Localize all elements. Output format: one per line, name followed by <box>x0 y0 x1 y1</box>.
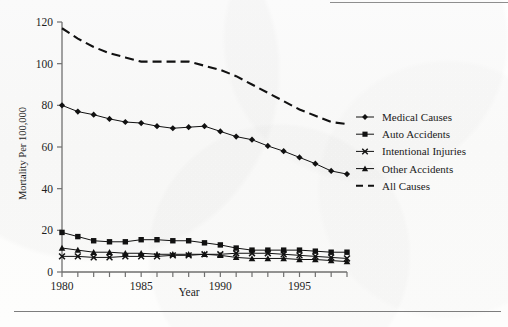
series-all-causes <box>62 28 347 124</box>
y-tick-label: 120 <box>36 16 54 28</box>
diamond-marker <box>249 137 255 143</box>
square-marker <box>233 245 238 250</box>
diamond-marker <box>170 125 176 131</box>
diamond-marker <box>154 123 160 129</box>
diamond-marker <box>233 133 239 139</box>
diamond-marker <box>281 148 287 154</box>
square-marker <box>313 248 318 253</box>
x-tick-label: 1990 <box>209 280 232 292</box>
y-tick-label: 40 <box>42 183 54 195</box>
square-marker <box>297 247 302 252</box>
square-marker <box>59 230 64 235</box>
square-marker <box>362 132 367 137</box>
legend-item[interactable]: Intentional Injuries <box>356 145 466 157</box>
diamond-marker <box>201 123 207 129</box>
data-series-layer <box>59 28 351 264</box>
diamond-marker <box>217 128 223 134</box>
series-medical-causes <box>59 102 350 177</box>
y-tick-label: 0 <box>47 266 53 278</box>
legend-label: Other Accidents <box>382 163 453 175</box>
diamond-marker <box>75 108 81 114</box>
square-marker <box>123 239 128 244</box>
diamond-marker <box>106 116 112 122</box>
square-marker <box>202 240 207 245</box>
square-marker <box>186 238 191 243</box>
diamond-marker <box>138 120 144 126</box>
x-tick-label: 1980 <box>51 280 74 292</box>
diamond-marker <box>296 154 302 160</box>
legend: Medical CausesAuto AccidentsIntentional … <box>356 111 466 192</box>
mortality-line-chart: 020406080100120 1980198519901995 Mortali… <box>0 0 508 327</box>
diamond-marker <box>265 143 271 149</box>
legend-label: Auto Accidents <box>382 128 450 140</box>
diamond-marker <box>122 119 128 125</box>
square-marker <box>75 234 80 239</box>
legend-label: All Causes <box>382 180 430 192</box>
diamond-marker <box>328 168 334 174</box>
y-tick-group: 020406080100120 <box>36 16 62 278</box>
diamond-marker <box>91 112 97 118</box>
x-axis-title: Year <box>178 286 199 298</box>
chart-svg: 020406080100120 1980198519901995 Mortali… <box>0 0 508 327</box>
x-tick-label: 1995 <box>288 280 311 292</box>
legend-item[interactable]: Medical Causes <box>356 111 452 123</box>
square-marker <box>138 237 143 242</box>
legend-item[interactable]: All Causes <box>356 180 430 192</box>
y-tick-label: 100 <box>36 58 54 70</box>
diamond-marker <box>344 171 350 177</box>
y-tick-label: 80 <box>42 99 54 111</box>
axis-group <box>62 22 347 272</box>
square-marker <box>154 237 159 242</box>
triangle-marker <box>59 245 66 251</box>
square-marker <box>170 238 175 243</box>
legend-label: Medical Causes <box>382 111 452 123</box>
square-marker <box>91 238 96 243</box>
x-tick-label: 1985 <box>130 280 153 292</box>
diamond-marker <box>362 114 368 120</box>
diamond-marker <box>312 161 318 167</box>
diamond-marker <box>59 102 65 108</box>
square-marker <box>107 239 112 244</box>
legend-item[interactable]: Other Accidents <box>356 163 453 175</box>
square-marker <box>218 242 223 247</box>
diamond-marker <box>186 124 192 130</box>
y-axis-title: Mortality Per 100,000 <box>17 107 28 200</box>
legend-label: Intentional Injuries <box>382 145 466 157</box>
legend-item[interactable]: Auto Accidents <box>356 128 450 140</box>
series-line <box>62 105 347 174</box>
square-marker <box>344 250 349 255</box>
square-marker <box>328 250 333 255</box>
series-line <box>62 28 347 124</box>
y-tick-label: 60 <box>42 141 54 153</box>
y-tick-label: 20 <box>42 224 54 236</box>
